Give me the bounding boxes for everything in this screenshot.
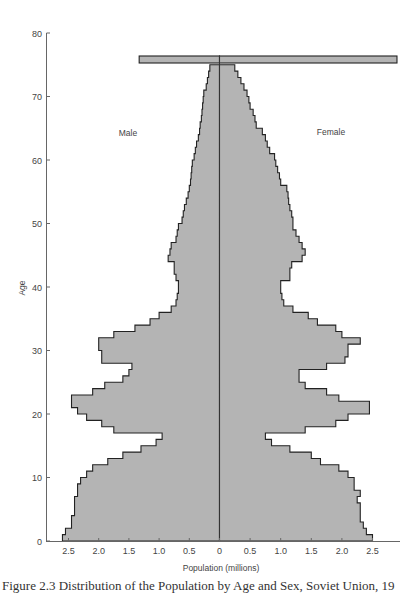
male-label: Male — [119, 128, 138, 138]
male-75-plus-bar — [139, 56, 219, 63]
x-tick-label: 2.0 — [336, 546, 349, 556]
y-tick-label: 10 — [32, 473, 42, 483]
x-tick-label: 2.0 — [92, 546, 105, 556]
x-tick-label: 1.0 — [274, 546, 287, 556]
y-tick-label: 80 — [32, 29, 42, 39]
y-tick-label: 20 — [32, 410, 42, 420]
y-tick-label: 70 — [32, 92, 42, 102]
male-population-bars — [62, 65, 219, 541]
x-tick-label: 1.5 — [305, 546, 318, 556]
x-tick-label: 1.0 — [153, 546, 166, 556]
x-axis-label: Population (millions) — [183, 563, 260, 573]
y-tick-label: 40 — [32, 283, 42, 293]
y-tick-label: 60 — [32, 156, 42, 166]
x-tick-label: 0 — [217, 546, 222, 556]
female-label: Female — [317, 127, 346, 137]
y-axis-label: Age — [17, 280, 27, 295]
x-tick-label: 2.5 — [366, 546, 379, 556]
y-tick-label: 30 — [32, 346, 42, 356]
female-population-bars — [220, 65, 373, 541]
y-axis-ticks: 01020304050607080 — [32, 29, 50, 547]
x-tick-label: 2.5 — [62, 546, 75, 556]
figure-caption: Figure 2.3 Distribution of the Populatio… — [0, 578, 418, 594]
female-75-plus-bar — [220, 56, 397, 63]
x-tick-label: 0.5 — [244, 546, 257, 556]
y-tick-label: 50 — [32, 219, 42, 229]
pyramid-bars — [62, 56, 397, 541]
y-tick-label: 0 — [37, 537, 42, 547]
population-pyramid-chart: 01020304050607080 2.52.01.51.00.500.51.0… — [0, 0, 418, 596]
x-tick-label: 0.5 — [183, 546, 196, 556]
x-tick-label: 1.5 — [123, 546, 136, 556]
